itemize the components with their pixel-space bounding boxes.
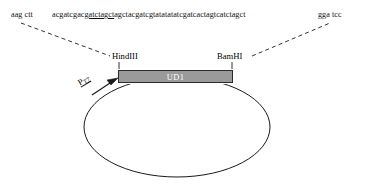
restriction-site-label-hindiii: HindIII: [112, 51, 138, 62]
leader-line-bamhi: [252, 23, 330, 56]
sequence-core-prefix: acgatcgac: [52, 10, 84, 19]
plasmid-figure: aag ctt acgatcgacgatctagctagctacgatcgtat…: [0, 0, 367, 184]
restriction-site-label-bamhi: BamHI: [217, 51, 242, 62]
sequence-core: acgatcgacgatctagctagctacgatcgtatatatatcg…: [52, 8, 245, 22]
promoter-label-pt7: PT7: [76, 73, 91, 88]
gene-box-label: UD1: [119, 72, 232, 83]
plasmid-backbone-ellipse: [84, 77, 270, 177]
dna-sequence-row: aag ctt acgatcgacgatctagctagctacgatcgtat…: [0, 8, 367, 22]
sequence-core-underlined: gatctagct: [84, 10, 114, 19]
sequence-right-flank: gga tcc: [318, 8, 342, 22]
promoter-arrow-icon: [92, 78, 118, 95]
gene-box-ud1: UD1: [118, 70, 233, 83]
sequence-left-flank: aag ctt: [11, 8, 33, 22]
leader-line-hindiii: [21, 23, 110, 56]
plasmid-drawing: [0, 0, 367, 184]
sequence-core-suffix: agctacgatcgtatatatatcgatcactagtcatctagct: [114, 10, 245, 19]
